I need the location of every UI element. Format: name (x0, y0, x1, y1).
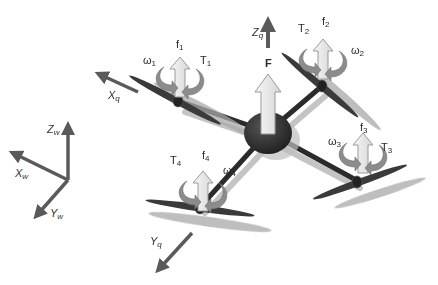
rotor-2-torque-label: T2 (298, 23, 309, 36)
rotor-4-force-label: f4 (202, 150, 210, 163)
rotor-1-omega-label: ω1 (143, 55, 156, 68)
quad-x-label: Xq (108, 90, 120, 103)
rotor-3-force-label: f3 (360, 122, 368, 135)
rotor-2-force-label: f2 (322, 16, 330, 29)
rotor-1-torque-label: T1 (200, 55, 211, 68)
world-z-label: Zw (47, 124, 60, 137)
quadrotor-diagram: Zw Xw Yw Xq Yq Zq F f1 ω1 T1 f2 T2 ω2 f3… (0, 0, 438, 285)
diagram-canvas (0, 0, 438, 285)
quad-frame-axes (101, 24, 268, 268)
rotor-3-omega-label: ω3 (328, 136, 341, 149)
total-force-label: F (265, 58, 272, 69)
quad-y-label: Yq (150, 236, 162, 249)
rotor-1-force-label: f1 (176, 39, 184, 52)
rotor-3-torque-label: T3 (381, 142, 392, 155)
world-y-label: Yw (50, 208, 63, 221)
quad-z-label: Zq (252, 27, 263, 40)
rotor-2-omega-label: ω2 (351, 45, 364, 58)
rotor-4-omega-label: ω4 (223, 165, 236, 178)
rotor-3-forces (339, 133, 387, 175)
world-x-label: Xw (15, 168, 28, 181)
rotor-4-torque-label: T4 (170, 155, 181, 168)
